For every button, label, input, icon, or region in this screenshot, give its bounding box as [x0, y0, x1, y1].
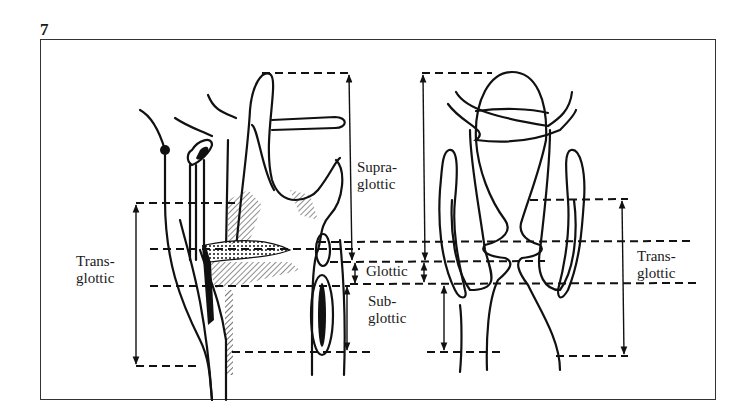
label-line: Supra- — [357, 159, 397, 176]
label-line: Sub- — [368, 293, 406, 310]
label-line: glottic — [357, 176, 397, 193]
label-line: Trans- — [76, 253, 115, 270]
label-line: glottic — [368, 310, 406, 327]
label-supraglottic: Supra- glottic — [357, 159, 397, 193]
label-line: Trans- — [637, 248, 676, 265]
label-line: glottic — [76, 270, 115, 287]
larynx-diagram — [0, 0, 752, 419]
vocal-fold-stipple — [205, 241, 290, 262]
coronal-view — [439, 72, 584, 372]
label-line: glottic — [637, 265, 676, 282]
label-subglottic: Sub- glottic — [368, 293, 406, 327]
label-glottic: Glottic — [366, 263, 408, 280]
label-transglottic-left: Trans- glottic — [76, 253, 115, 287]
level-lines — [136, 73, 700, 366]
label-transglottic-right: Trans- glottic — [637, 248, 676, 282]
posterior-dot — [160, 145, 170, 155]
